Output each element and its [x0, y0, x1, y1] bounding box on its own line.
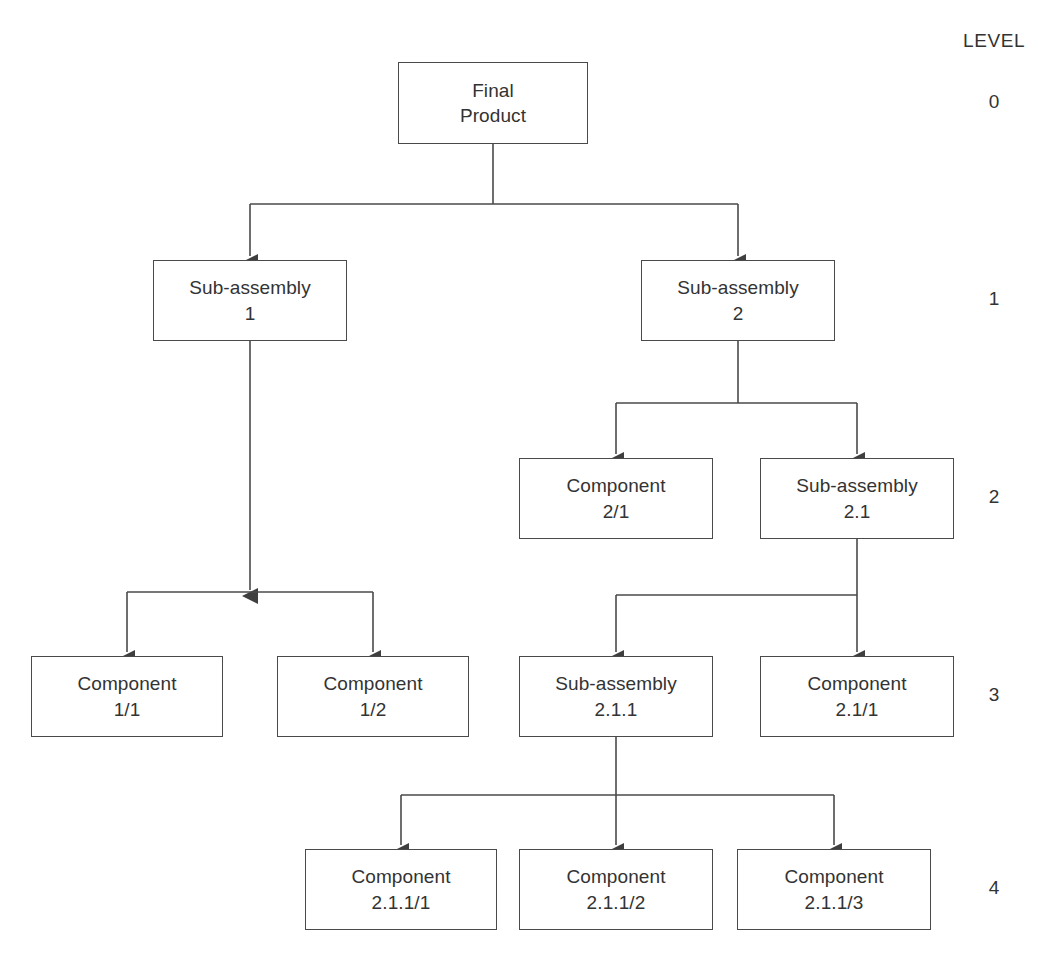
level-number-2: 2 — [979, 486, 1009, 508]
node-label-line2: Product — [460, 103, 526, 128]
node-label-line1: Sub-assembly — [555, 671, 677, 696]
node-label-line2: 2.1 — [844, 499, 871, 524]
node-label-line2: 2 — [733, 301, 744, 326]
node-label-line1: Component — [323, 671, 422, 696]
node-label-line1: Component — [77, 671, 176, 696]
node-label-line1: Component — [351, 864, 450, 889]
node-label-line1: Sub-assembly — [796, 473, 918, 498]
node-label-line2: 1/2 — [360, 697, 387, 722]
node-label-line1: Sub-assembly — [677, 275, 799, 300]
node-label-line2: 2.1.1/3 — [805, 890, 864, 915]
node-label-line1: Component — [566, 864, 665, 889]
node-label-line2: 2.1/1 — [836, 697, 879, 722]
level-number-0: 0 — [979, 91, 1009, 113]
level-number-3: 3 — [979, 684, 1009, 706]
node-label-line2: 1 — [245, 301, 256, 326]
node-sub-assembly-2-1[interactable]: Sub-assembly 2.1 — [760, 458, 954, 539]
bom-tree-diagram: LEVEL 0 1 2 3 4 Final Product Sub-assemb… — [0, 0, 1055, 956]
level-column-header: LEVEL — [963, 30, 1025, 52]
node-label-line2: 2.1.1/2 — [587, 890, 646, 915]
node-label-line1: Component — [807, 671, 906, 696]
level-number-1: 1 — [979, 288, 1009, 310]
node-component-2-1-1-slash-2[interactable]: Component 2.1.1/2 — [519, 849, 713, 930]
node-label-line1: Component — [566, 473, 665, 498]
node-label-line1: Sub-assembly — [189, 275, 311, 300]
node-label-line2: 2.1.1/1 — [372, 890, 431, 915]
node-component-2-1-1-slash-1[interactable]: Component 2.1.1/1 — [305, 849, 497, 930]
node-component-1-2[interactable]: Component 1/2 — [277, 656, 469, 737]
node-label-line2: 2/1 — [603, 499, 630, 524]
level-number-4: 4 — [979, 877, 1009, 899]
node-component-2-1-1-slash-3[interactable]: Component 2.1.1/3 — [737, 849, 931, 930]
node-label-line1: Final — [472, 78, 514, 103]
node-sub-assembly-2[interactable]: Sub-assembly 2 — [641, 260, 835, 341]
connector-group — [127, 144, 857, 845]
node-label-line2: 2.1.1 — [595, 697, 638, 722]
node-sub-assembly-2-1-1[interactable]: Sub-assembly 2.1.1 — [519, 656, 713, 737]
node-label-line2: 1/1 — [114, 697, 141, 722]
node-final-product[interactable]: Final Product — [398, 62, 588, 144]
node-label-line1: Component — [784, 864, 883, 889]
node-component-2-1-slash-1[interactable]: Component 2.1/1 — [760, 656, 954, 737]
node-sub-assembly-1[interactable]: Sub-assembly 1 — [153, 260, 347, 341]
node-component-1-1[interactable]: Component 1/1 — [31, 656, 223, 737]
node-component-2-1[interactable]: Component 2/1 — [519, 458, 713, 539]
